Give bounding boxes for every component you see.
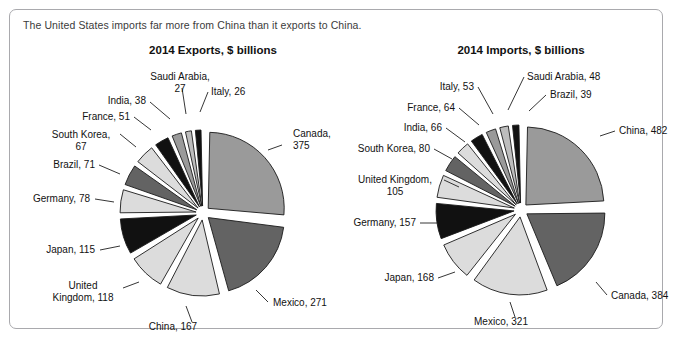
leader-line — [510, 302, 515, 317]
pie-slice-label: Germany, 78 — [33, 193, 90, 204]
pie-slice[interactable]: Mexico, 271 — [208, 218, 283, 291]
leader-line — [478, 87, 493, 114]
pie-slice-label: Japan, 168 — [385, 272, 435, 283]
pie-slice-label: Canada, 384 — [611, 290, 669, 301]
leader-line — [100, 246, 120, 250]
leader-line — [438, 272, 455, 278]
pie-slice-label: South Korea, 80 — [358, 143, 431, 154]
leader-line — [134, 117, 151, 130]
pie-slice-label: France, 51 — [82, 111, 130, 122]
leader-line — [446, 128, 465, 142]
pie-slice-label: Italy, 26 — [211, 86, 246, 97]
leader-line — [508, 77, 524, 110]
pie-slice-label: Canada,375 — [293, 128, 331, 151]
leader-line — [123, 282, 139, 288]
pie-slice-label: Mexico, 271 — [273, 297, 327, 308]
pie-slice-label: Germany, 157 — [353, 217, 416, 228]
pie-slice-label: China, 167 — [149, 321, 198, 332]
pie-slice-label: China, 482 — [619, 125, 668, 136]
leader-line — [268, 145, 282, 150]
leader-line — [256, 290, 268, 302]
chart-panel: The United States imports far more from … — [9, 9, 663, 329]
leader-line — [434, 149, 452, 159]
leader-line — [99, 165, 120, 174]
leader-line — [459, 108, 479, 125]
pie-slice-label: Brazil, 39 — [550, 89, 592, 100]
pie-slice[interactable]: Canada, 375 — [208, 132, 284, 215]
leader-line — [150, 102, 170, 119]
pie-chart-imports: China, 482China, 482Canada, 384Canada, 3… — [353, 71, 668, 327]
leader-line — [95, 199, 114, 202]
leader-line — [200, 92, 208, 112]
leader-line — [120, 134, 136, 147]
pie-slice-label: Brazil, 71 — [53, 159, 95, 170]
leader-line — [529, 95, 546, 111]
pie-slice-label: France, 64 — [407, 102, 455, 113]
pie-charts-layer: Canada, 375Canada,375Mexico, 271Mexico, … — [10, 10, 664, 330]
leader-line — [186, 306, 192, 322]
pie-slice-label: India, 66 — [404, 122, 443, 133]
pie-chart-exports: Canada, 375Canada,375Mexico, 271Mexico, … — [33, 71, 331, 332]
pie-slice-label: UnitedKingdom, 118 — [53, 280, 114, 303]
pie-slice-label: Saudi Arabia, 48 — [527, 71, 601, 82]
pie-slice-label: South Korea,67 — [52, 129, 110, 152]
leader-line — [600, 131, 615, 136]
leader-line — [596, 282, 607, 295]
pie-slice-label: Italy, 53 — [440, 81, 475, 92]
pie-slice[interactable]: China, 482 — [526, 127, 604, 205]
pie-slice-label: United Kingdom,105 — [358, 174, 432, 197]
pie-slice-label: Mexico, 321 — [474, 316, 528, 327]
pie-slice-label: Japan, 115 — [46, 244, 95, 255]
pie-slice-label: Saudi Arabia,27 — [150, 71, 210, 94]
pie-slice-label: India, 38 — [108, 95, 147, 106]
